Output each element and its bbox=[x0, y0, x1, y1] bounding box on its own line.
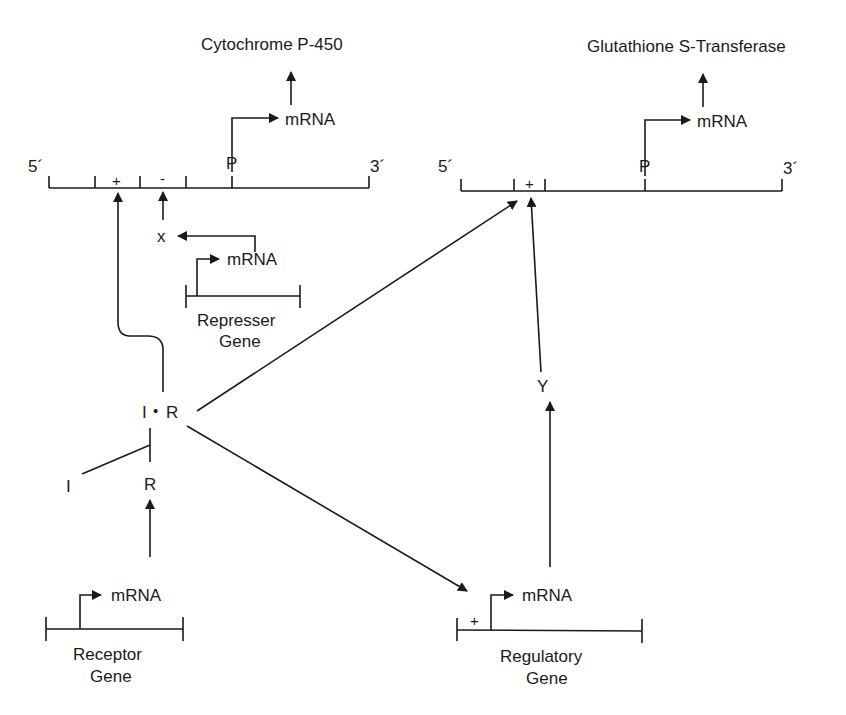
plus-site-label: + bbox=[470, 612, 479, 629]
complex-i-label: I bbox=[142, 403, 147, 422]
inducer-binding-line bbox=[82, 445, 150, 474]
promoter-label: P bbox=[639, 157, 650, 176]
regulatory-gene: Y mRNA + Regulatory Gene bbox=[457, 198, 642, 688]
free-inducer-label: I bbox=[66, 477, 71, 496]
diagram-canvas: Cytochrome P-450 mRNA P 5´ 3´ + - Glutat… bbox=[0, 0, 846, 715]
receptor-mrna-label: mRNA bbox=[111, 586, 162, 605]
repressor-mrna-label: mRNA bbox=[227, 250, 278, 269]
regulatory-mrna-label: mRNA bbox=[522, 586, 573, 605]
receptor-gene-label-2: Gene bbox=[90, 667, 132, 686]
glutathione-gene: Glutathione S-Transferase mRNA P 5´ 3´ + bbox=[438, 37, 798, 192]
complex-to-plus-site-arrow bbox=[118, 193, 163, 392]
gene-regulation-diagram: Cytochrome P-450 mRNA P 5´ 3´ + - Glutat… bbox=[0, 0, 846, 715]
minus-site-label: - bbox=[160, 170, 165, 187]
repressor-gene-label: Represser bbox=[197, 311, 276, 330]
gene-strand bbox=[457, 630, 642, 631]
cytochrome-gene: Cytochrome P-450 mRNA P 5´ 3´ + - bbox=[28, 35, 385, 189]
plus-site-label: + bbox=[525, 175, 534, 192]
repressor-gene: x mRNA Represser Gene bbox=[157, 192, 300, 351]
transcription-start-arrow bbox=[197, 259, 219, 296]
repressor-gene-label-2: Gene bbox=[219, 332, 261, 351]
plus-site-label: + bbox=[112, 172, 121, 189]
transcription-start-arrow bbox=[491, 595, 513, 630]
regulatory-gene-label-2: Gene bbox=[526, 669, 568, 688]
five-prime-label: 5´ bbox=[438, 157, 453, 176]
repressor-x-label: x bbox=[157, 227, 166, 246]
receptor-gene: mRNA Receptor Gene bbox=[46, 586, 183, 686]
free-receptor-label: R bbox=[144, 475, 156, 494]
y-to-gst-plus-site-arrow bbox=[531, 198, 541, 372]
cytochrome-p450-label: Cytochrome P-450 bbox=[201, 35, 343, 54]
glutathione-label: Glutathione S-Transferase bbox=[587, 37, 786, 56]
transcription-start-arrow bbox=[645, 120, 690, 176]
three-prime-label: 3´ bbox=[370, 157, 385, 176]
inducer-receptor-complex: I • R I R bbox=[66, 193, 517, 591]
receptor-gene-label: Receptor bbox=[73, 645, 142, 664]
complex-to-regulatory-arrow bbox=[187, 426, 467, 591]
complex-dot: • bbox=[153, 402, 158, 419]
complex-to-gst-arrow bbox=[197, 201, 517, 411]
cytochrome-mrna-label: mRNA bbox=[285, 110, 336, 129]
glutathione-mrna-label: mRNA bbox=[697, 112, 748, 131]
transcription-start-arrow bbox=[232, 118, 278, 172]
regulatory-gene-label: Regulatory bbox=[500, 647, 583, 666]
y-factor-label: Y bbox=[537, 377, 548, 396]
transcription-start-arrow bbox=[80, 595, 101, 629]
three-prime-label: 3´ bbox=[783, 159, 798, 178]
promoter-label: P bbox=[226, 154, 237, 173]
complex-r-label: R bbox=[166, 403, 178, 422]
five-prime-label: 5´ bbox=[28, 157, 43, 176]
